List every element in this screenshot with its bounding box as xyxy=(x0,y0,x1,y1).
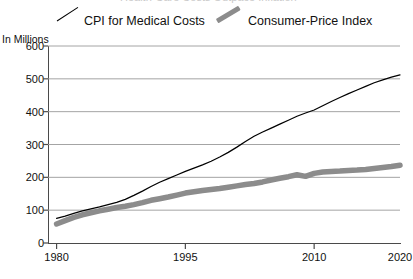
plot-area xyxy=(48,46,400,243)
series-line-cpi-medical xyxy=(57,75,400,218)
y-axis-tick-label: 600 xyxy=(26,40,44,52)
series-line-consumer-price-index xyxy=(57,165,400,224)
legend-item-cpi-medical: CPI for Medical Costs xyxy=(57,9,205,33)
clipped-title-strip: Health-Care Costs Outpace Inflation xyxy=(0,0,413,7)
x-axis-tick-label: 1995 xyxy=(173,251,197,263)
y-axis-tick-label: 400 xyxy=(26,106,44,118)
legend-label-cpi: Consumer-Price Index xyxy=(248,15,372,28)
y-axis-tick-label: 300 xyxy=(26,139,44,151)
legend-item-consumer-price-index: Consumer-Price Index xyxy=(216,9,372,33)
series-layer xyxy=(48,46,400,243)
chart-container: Health-Care Costs Outpace Inflation CPI … xyxy=(0,0,413,279)
x-axis-tick-label: 2010 xyxy=(302,251,326,263)
x-axis-tick-label: 2020 xyxy=(388,251,412,263)
y-axis-tick-label: 500 xyxy=(26,73,44,85)
legend-line-icon-medical xyxy=(57,12,79,30)
y-axis-tick-label: 100 xyxy=(26,204,44,216)
chart-title: Health-Care Costs Outpace Inflation xyxy=(120,0,297,3)
x-axis-tick-labels: 1980199520102020 xyxy=(0,251,413,267)
y-axis-tick-label: 200 xyxy=(26,171,44,183)
chart-legend: CPI for Medical Costs Consumer-Price Ind… xyxy=(0,9,413,33)
legend-label-medical: CPI for Medical Costs xyxy=(84,15,205,28)
y-axis-tick-labels: 6005004003002001000 xyxy=(0,46,44,243)
x-axis-tick-label: 1980 xyxy=(44,251,68,263)
legend-line-icon-cpi xyxy=(216,12,242,30)
